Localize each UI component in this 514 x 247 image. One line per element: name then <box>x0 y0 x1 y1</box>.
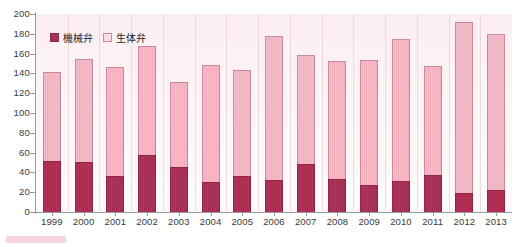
bar-segment-mechanical[interactable] <box>392 181 410 212</box>
x-axis-tick-label: 2005 <box>226 216 258 227</box>
x-axis-tick-label: 2003 <box>163 216 195 227</box>
y-axis-tick-label: 80 <box>2 128 30 137</box>
stacked-bar[interactable] <box>424 66 442 212</box>
stacked-bar[interactable] <box>265 36 283 212</box>
stacked-bar[interactable] <box>297 55 315 212</box>
y-axis-tick <box>30 212 35 213</box>
stacked-bar[interactable] <box>75 59 93 212</box>
bar-segment-bioprosthetic[interactable] <box>138 46 156 155</box>
x-axis-tick-label: 2004 <box>195 216 227 227</box>
bar-segment-bioprosthetic[interactable] <box>297 55 315 165</box>
y-axis-tick-label: 180 <box>2 29 30 38</box>
bar-segment-bioprosthetic[interactable] <box>170 82 188 167</box>
bar-segment-bioprosthetic[interactable] <box>75 59 93 162</box>
bar-segment-bioprosthetic[interactable] <box>43 72 61 160</box>
stacked-bar[interactable] <box>392 39 410 212</box>
x-axis-tick-label: 2001 <box>99 216 131 227</box>
column-separator <box>226 14 227 212</box>
y-axis-tick-label: 140 <box>2 68 30 77</box>
stacked-bar[interactable] <box>202 65 220 212</box>
stacked-bar[interactable] <box>233 70 251 212</box>
column-separator <box>480 14 481 212</box>
x-axis-tick <box>242 212 243 216</box>
x-axis-tick-label: 2011 <box>417 216 449 227</box>
bar-segment-bioprosthetic[interactable] <box>392 39 410 182</box>
stacked-bar[interactable] <box>455 22 473 212</box>
x-axis-tick-label: 2007 <box>290 216 322 227</box>
column-separator <box>449 14 450 212</box>
y-axis-tick-label: 100 <box>2 108 30 117</box>
y-axis-tick <box>30 14 35 15</box>
x-axis-tick-label: 2008 <box>321 216 353 227</box>
decorative-pink-tab <box>6 236 66 243</box>
column-separator <box>163 14 164 212</box>
x-axis-tick <box>52 212 53 216</box>
stacked-bar[interactable] <box>170 82 188 212</box>
stacked-bar[interactable] <box>43 72 61 212</box>
bar-segment-bioprosthetic[interactable] <box>328 61 346 180</box>
x-axis-tick <box>401 212 402 216</box>
bar-segment-bioprosthetic[interactable] <box>455 22 473 193</box>
x-axis-tick <box>496 212 497 216</box>
stacked-bar[interactable] <box>360 60 378 212</box>
x-axis-tick-label: 2010 <box>385 216 417 227</box>
chart-screenshot: 200180160140120100806040200 199920002001… <box>0 0 514 247</box>
bar-segment-mechanical[interactable] <box>360 185 378 212</box>
bar-segment-mechanical[interactable] <box>424 175 442 212</box>
y-axis-tick <box>30 153 35 154</box>
bar-segment-bioprosthetic[interactable] <box>424 66 442 175</box>
x-axis-tick <box>147 212 148 216</box>
y-axis-labels: 200180160140120100806040200 <box>0 0 30 247</box>
bar-segment-bioprosthetic[interactable] <box>265 36 283 181</box>
y-axis-tick <box>30 172 35 173</box>
bar-segment-bioprosthetic[interactable] <box>202 65 220 182</box>
bar-segment-bioprosthetic[interactable] <box>106 67 124 176</box>
x-axis-tick <box>433 212 434 216</box>
bar-segment-mechanical[interactable] <box>170 167 188 212</box>
y-axis-tick <box>30 54 35 55</box>
x-axis-tick <box>179 212 180 216</box>
x-axis-tick-label: 2006 <box>258 216 290 227</box>
legend-label-mechanical: 機械弁 <box>63 30 93 45</box>
bar-segment-mechanical[interactable] <box>106 176 124 212</box>
x-axis-tick-label: 2002 <box>131 216 163 227</box>
stacked-bar[interactable] <box>487 34 505 212</box>
bar-segment-mechanical[interactable] <box>265 180 283 212</box>
column-separator <box>195 14 196 212</box>
y-axis-tick-label: 20 <box>2 187 30 196</box>
x-axis-tick <box>337 212 338 216</box>
y-axis-line <box>35 12 36 214</box>
y-axis-tick <box>30 133 35 134</box>
x-axis-tick <box>84 212 85 216</box>
column-separator <box>417 14 418 212</box>
bar-segment-mechanical[interactable] <box>328 179 346 212</box>
x-axis-tick <box>211 212 212 216</box>
x-axis-tick-label: 1999 <box>36 216 68 227</box>
y-axis-tick-label: 40 <box>2 167 30 176</box>
bar-segment-mechanical[interactable] <box>202 182 220 212</box>
bar-segment-mechanical[interactable] <box>43 161 61 212</box>
chart-legend: 機械弁 生体弁 <box>50 30 146 45</box>
column-separator <box>258 14 259 212</box>
bar-segment-bioprosthetic[interactable] <box>233 70 251 176</box>
stacked-bar[interactable] <box>328 61 346 212</box>
bar-segment-mechanical[interactable] <box>138 155 156 212</box>
x-axis-tick-label: 2012 <box>448 216 480 227</box>
bar-segment-mechanical[interactable] <box>487 190 505 212</box>
x-axis-tick <box>274 212 275 216</box>
column-separator <box>353 14 354 212</box>
y-axis-tick-label: 200 <box>2 9 30 18</box>
bar-segment-mechanical[interactable] <box>455 193 473 212</box>
stacked-bar[interactable] <box>106 67 124 212</box>
y-axis-tick <box>30 113 35 114</box>
x-axis-tick-label: 2000 <box>68 216 100 227</box>
bar-segment-bioprosthetic[interactable] <box>487 34 505 190</box>
stacked-bar[interactable] <box>138 46 156 212</box>
bar-segment-mechanical[interactable] <box>297 164 315 212</box>
bar-segment-mechanical[interactable] <box>233 176 251 212</box>
x-axis-tick-label: 2013 <box>480 216 512 227</box>
bar-segment-mechanical[interactable] <box>75 162 93 212</box>
bar-segment-bioprosthetic[interactable] <box>360 60 378 186</box>
column-separator <box>322 14 323 212</box>
x-axis-tick <box>369 212 370 216</box>
